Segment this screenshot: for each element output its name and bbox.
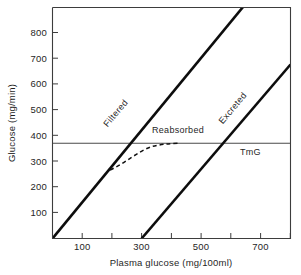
y-axis-title: Glucose (mg/min): [6, 84, 17, 162]
x-tick-label-500: 500: [193, 241, 209, 252]
y-tick-label-500: 500: [31, 104, 47, 115]
y-tick-label-400: 400: [31, 130, 47, 141]
y-tick-label-600: 600: [31, 78, 47, 89]
y-tick-label-100: 100: [31, 207, 47, 218]
y-tick-label-300: 300: [31, 156, 47, 167]
chart-figure: 800 700 600 500 400 300 200 100 100 300 …: [0, 0, 301, 275]
x-tick-label-100: 100: [74, 241, 90, 252]
tmg-label: TmG: [240, 147, 261, 157]
x-tick-label-700: 700: [252, 241, 268, 252]
reabsorbed-label: Reabsorbed: [152, 125, 204, 135]
x-axis-title: Plasma glucose (mg/100ml): [110, 257, 233, 268]
renal-glucose-chart-svg: 800 700 600 500 400 300 200 100 100 300 …: [0, 0, 301, 275]
y-tick-label-700: 700: [31, 53, 47, 64]
x-tick-label-300: 300: [133, 241, 149, 252]
y-tick-label-800: 800: [31, 27, 47, 38]
y-tick-label-200: 200: [31, 181, 47, 192]
